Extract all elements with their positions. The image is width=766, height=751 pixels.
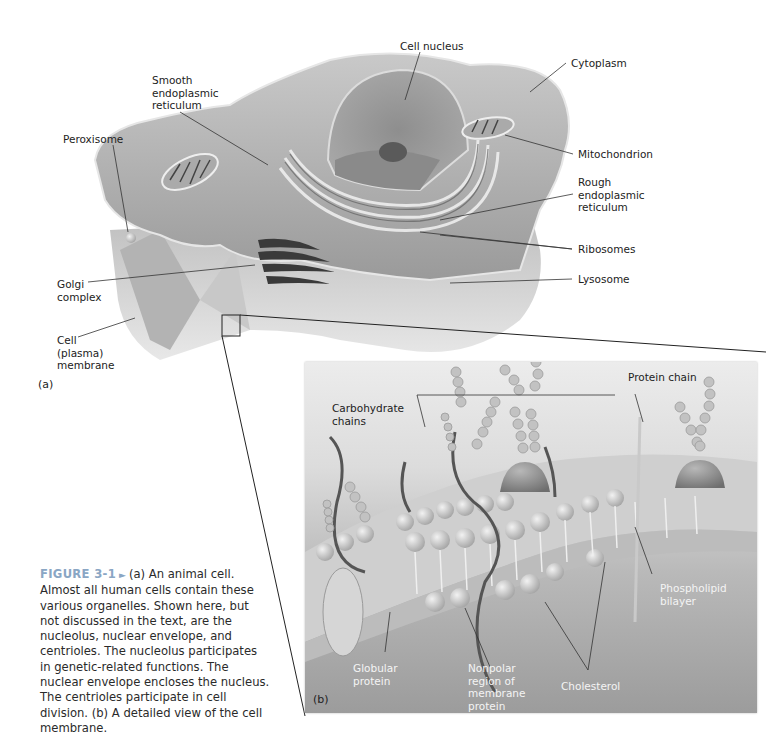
label-carbohydrate-chains: Carbohydrate chains [332, 402, 404, 427]
globular-protein [323, 568, 363, 656]
label-cholesterol: Cholesterol [561, 680, 620, 693]
label-ribosomes: Ribosomes [578, 243, 635, 256]
figure-caption: FIGURE 3-1►(a) An animal cell. Almost al… [40, 567, 270, 736]
label-nonpolar-region: Nonpolar region of membrane protein [468, 662, 525, 712]
label-smooth-er: Smooth endoplasmic reticulum [152, 74, 219, 112]
panel-a-tag: (a) [38, 379, 53, 392]
label-phospholipid-bilayer: Phospholipid bilayer [660, 582, 727, 607]
arrow-icon: ► [119, 570, 126, 580]
cell-membrane-detail-panel: Carbohydrate chains Protein chain Phosph… [305, 362, 757, 713]
label-cytoplasm: Cytoplasm [571, 57, 627, 70]
label-protein-chain: Protein chain [628, 371, 697, 384]
label-lysosome: Lysosome [578, 273, 630, 286]
panel-b-tag: (b) [313, 694, 329, 707]
label-cell-membrane: Cell (plasma) membrane [57, 334, 114, 372]
label-globular-protein: Globular protein [353, 662, 397, 687]
label-golgi-complex: Golgi complex [57, 278, 102, 303]
label-rough-er: Rough endoplasmic reticulum [578, 176, 645, 214]
caption-text: (a) An animal cell. Almost all human cel… [40, 567, 269, 735]
figure-number: FIGURE 3-1 [40, 567, 116, 581]
label-peroxisome: Peroxisome [63, 133, 123, 146]
label-mitochondrion: Mitochondrion [578, 148, 653, 161]
label-cell-nucleus: Cell nucleus [400, 40, 464, 53]
